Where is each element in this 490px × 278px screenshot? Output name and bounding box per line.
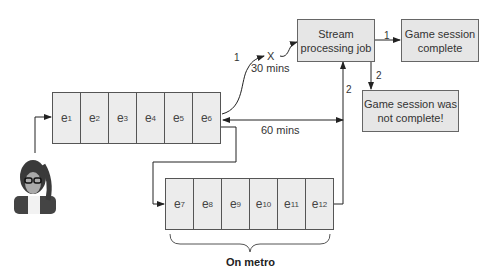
game-session-not-complete-box: Game session was not complete!	[362, 90, 459, 132]
thirty-mins-label: 30 mins	[251, 62, 290, 74]
timeout-x-mark: X	[267, 50, 274, 62]
event-cell: e5	[165, 93, 193, 143]
event-cell: e6	[193, 93, 220, 143]
event-cell: e2	[81, 93, 109, 143]
event-queue-row-2: e7 e8 e9 e10 e11 e12	[165, 178, 334, 230]
diagram: e1 e2 e3 e4 e5 e6 e7 e8 e9 e10 e11 e12 S…	[0, 0, 490, 278]
on-metro-label: On metro	[226, 256, 275, 268]
game-session-complete-box: Game session complete	[401, 19, 479, 62]
stream-processing-job-box: Stream processing job	[297, 19, 375, 62]
event-cell: e11	[278, 179, 306, 229]
event-cell: e7	[166, 179, 194, 229]
event-cell: e9	[222, 179, 250, 229]
event-cell: e1	[53, 93, 81, 143]
user-avatar-icon	[14, 160, 56, 214]
event-queue-row-1: e1 e2 e3 e4 e5 e6	[52, 92, 221, 144]
path-label-1: 1	[234, 52, 240, 63]
event-cell: e10	[250, 179, 278, 229]
event-cell: e8	[194, 179, 222, 229]
event-cell: e4	[137, 93, 165, 143]
path-label-2-up: 2	[346, 84, 352, 95]
event-cell: e12	[306, 179, 333, 229]
event-cell: e3	[109, 93, 137, 143]
sixty-mins-label: 60 mins	[261, 124, 300, 136]
output-label-2: 2	[376, 70, 382, 81]
output-label-1: 1	[384, 30, 390, 41]
